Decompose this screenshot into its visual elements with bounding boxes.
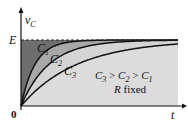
origin-label: 0 (11, 108, 17, 120)
annotation-r-fixed: R fixed (113, 83, 147, 95)
asymptote-label: E (8, 33, 17, 47)
y-axis-arrow-icon (19, 7, 24, 13)
y-axis-label: vC (25, 13, 36, 29)
x-axis-label: t (171, 108, 175, 122)
x-axis-arrow-icon (182, 104, 187, 109)
rc-charging-diagram: vC E 0 t C1 C2 C3 C3 > C2 > C1 R fixed (0, 0, 188, 132)
